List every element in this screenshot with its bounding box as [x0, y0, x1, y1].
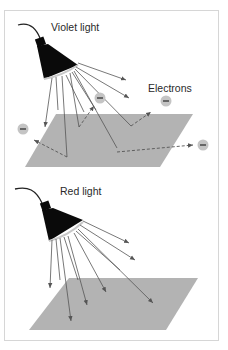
electron-icon: [95, 93, 106, 104]
violet-light-label: Violet light: [51, 21, 99, 33]
metal-plate: [29, 278, 198, 330]
lamp-cord: [15, 188, 42, 203]
photoelectric-diagram: Violet light Electrons: [0, 0, 228, 350]
electron-icon: [161, 96, 172, 107]
lamp-cord: [18, 24, 40, 38]
electron-icon: [18, 124, 29, 135]
red-light-panel: Red light: [15, 185, 198, 330]
red-light-label: Red light: [60, 185, 102, 197]
electron-icon: [198, 140, 209, 151]
electrons-label: Electrons: [148, 82, 192, 94]
violet-light-panel: Violet light Electrons: [18, 21, 209, 167]
metal-plate: [25, 114, 193, 167]
